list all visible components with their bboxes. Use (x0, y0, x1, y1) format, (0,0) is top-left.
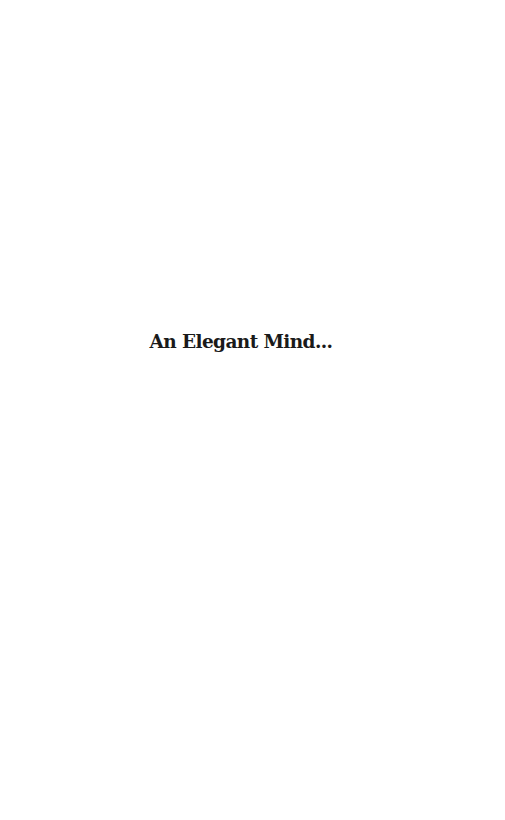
page-canvas: An Elegant Mind... (0, 0, 505, 820)
page-heading: An Elegant Mind... (0, 329, 482, 355)
